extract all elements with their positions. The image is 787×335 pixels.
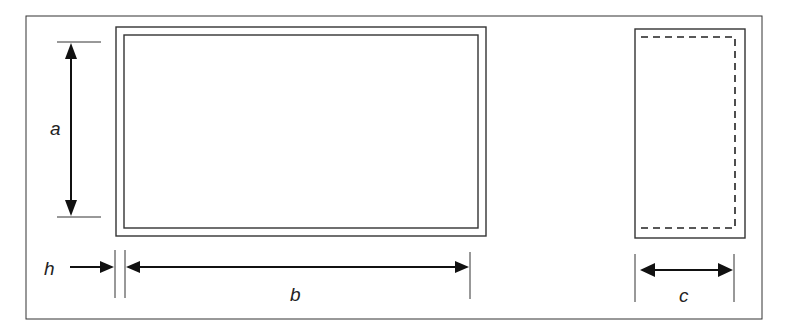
arrow-left-icon	[640, 263, 655, 277]
dimension-a: a	[50, 42, 101, 217]
front-view	[116, 27, 486, 236]
dimension-b: b	[126, 252, 470, 305]
arrow-left-icon	[126, 261, 140, 273]
arrow-right-icon	[455, 261, 469, 273]
dimension-b-label: b	[290, 284, 301, 305]
dimension-a-label: a	[50, 118, 61, 139]
dimension-h-label: h	[44, 258, 55, 279]
dimension-c: c	[635, 254, 734, 306]
arrow-up-icon	[65, 43, 77, 59]
front-view-outer-rect	[116, 27, 486, 236]
dimension-diagram: a h b c	[0, 0, 787, 335]
arrow-right-icon	[100, 261, 114, 273]
arrow-down-icon	[65, 200, 77, 216]
side-view	[635, 29, 745, 238]
side-view-rect	[635, 29, 745, 238]
front-view-inner-rect	[124, 35, 478, 228]
dimension-c-label: c	[679, 285, 689, 306]
side-view-dashed-outline	[641, 37, 735, 228]
dimension-h: h	[44, 250, 125, 298]
arrow-right-icon	[718, 263, 733, 277]
